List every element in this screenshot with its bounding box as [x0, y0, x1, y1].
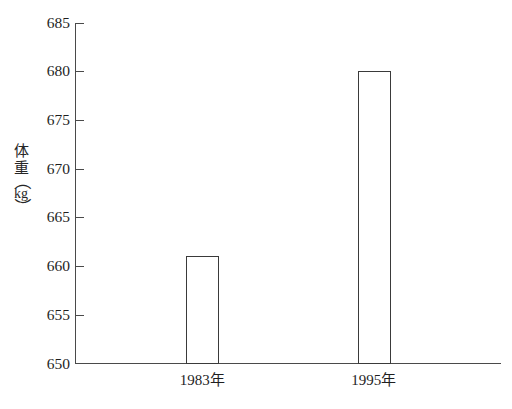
bar-1983年[interactable] [187, 257, 219, 364]
x-axis-tick-label-1983年: 1983年 [152, 372, 252, 388]
x-axis-tick-label-1995年: 1995年 [324, 372, 424, 388]
bar-1995年[interactable] [359, 72, 391, 364]
bar-chart: 体 重 （ kg ） 650655660665670675680685 1983… [0, 0, 512, 409]
plot-area [0, 0, 512, 409]
